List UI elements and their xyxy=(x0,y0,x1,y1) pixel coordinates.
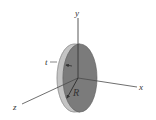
y-axis-label: y xyxy=(74,8,79,18)
disk-diagram: y x z t R xyxy=(0,0,156,120)
z-axis-label: z xyxy=(12,102,17,112)
x-axis-label: x xyxy=(138,82,143,92)
radius-label: R xyxy=(72,87,79,98)
disk xyxy=(57,44,97,112)
thickness-label: t xyxy=(45,57,48,67)
